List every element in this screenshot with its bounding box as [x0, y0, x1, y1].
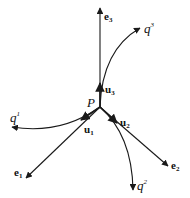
u3-label: u3 [105, 83, 115, 97]
e1-label: e1 [14, 166, 23, 180]
point-p-label: P [86, 95, 95, 110]
curvilinear-coordinates-diagram: P e3 q3 u3 q1 u1 e1 u2 e2 q2 [0, 0, 190, 198]
q2-curve [100, 107, 133, 190]
u1-label: u1 [84, 123, 94, 137]
e3-label: e3 [104, 10, 113, 24]
q3-curve [100, 28, 140, 107]
e2-label: e2 [171, 159, 180, 173]
q2-label: q2 [137, 178, 148, 193]
e1-axis [26, 107, 100, 178]
q1-label: q1 [10, 110, 20, 125]
u2-label: u2 [120, 116, 130, 130]
q3-label: q3 [144, 21, 155, 36]
